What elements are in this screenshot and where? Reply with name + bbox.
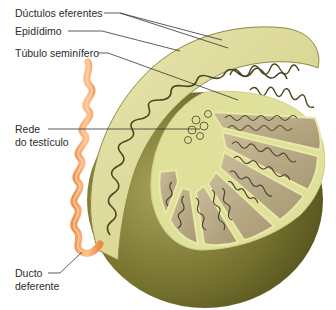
label-ductulos-eferentes: Dúctulos eferentes [15, 7, 103, 20]
label-ducto-line2: deferente [15, 280, 59, 293]
label-epididimo: Epidídimo [15, 25, 62, 38]
label-ducto-deferente: Ducto deferente [15, 267, 59, 293]
label-tubulo-seminifero: Túbulo seminífero [15, 47, 99, 60]
testis-diagram: Dúctulos eferentes Epidídimo Túbulo semi… [0, 0, 336, 310]
leader-ductulos-2 [120, 13, 228, 48]
label-rede-do-testiculo: Rede do testículo [15, 123, 69, 149]
label-ducto-line1: Ducto [15, 267, 59, 280]
label-rede-line1: Rede [15, 123, 69, 136]
label-rede-line2: do testículo [15, 136, 69, 149]
